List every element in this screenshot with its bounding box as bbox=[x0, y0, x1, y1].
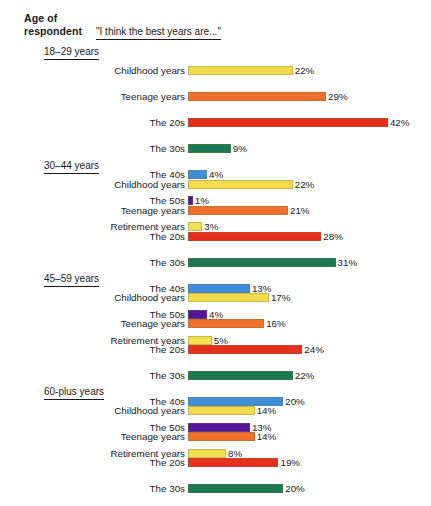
bar-row: The 30s31% bbox=[0, 256, 431, 269]
bar-category-label: The 30s bbox=[0, 256, 185, 269]
bar bbox=[188, 458, 278, 467]
bar-value-label: 9% bbox=[231, 142, 247, 155]
bar-row: Teenage years14% bbox=[0, 430, 431, 443]
bar-category-label: Teenage years bbox=[0, 430, 185, 443]
bar-category-label: Childhood years bbox=[0, 64, 185, 77]
bar-category-label: Childhood years bbox=[0, 178, 185, 191]
bar bbox=[188, 293, 269, 302]
bar-category-label: Teenage years bbox=[0, 90, 185, 103]
bar bbox=[188, 206, 288, 215]
bar-value-label: 22% bbox=[293, 178, 315, 191]
bar-category-label: The 30s bbox=[0, 369, 185, 382]
bar-value-label: 17% bbox=[269, 291, 291, 304]
chart-title: "I think the best years are..." bbox=[96, 26, 221, 40]
bar-value-label: 14% bbox=[255, 404, 277, 417]
bar-row: Teenage years16% bbox=[0, 317, 431, 330]
bar bbox=[188, 345, 302, 354]
bar-rows: Childhood years22%Teenage years29%The 20… bbox=[0, 64, 431, 155]
bar bbox=[188, 258, 336, 267]
bar-category-label: Teenage years bbox=[0, 317, 185, 330]
bar-category-label: Childhood years bbox=[0, 291, 185, 304]
bar-value-label: 22% bbox=[293, 369, 315, 382]
bar-category-label: Teenage years bbox=[0, 204, 185, 217]
age-group-label: 30–44 years bbox=[44, 160, 99, 174]
bar-row: The 20s19% bbox=[0, 456, 431, 469]
chart-container: Age of respondent "I think the best year… bbox=[0, 0, 431, 506]
bar-row: The 20s24% bbox=[0, 343, 431, 356]
bar-row: The 30s22% bbox=[0, 369, 431, 382]
bar-value-label: 19% bbox=[278, 456, 300, 469]
bar bbox=[188, 144, 231, 153]
bar-rows: Childhood years17%Teenage years16%The 20… bbox=[0, 291, 431, 382]
age-group-label: 60-plus years bbox=[44, 386, 104, 400]
bar bbox=[188, 484, 283, 493]
bar-rows: Childhood years22%Teenage years21%The 20… bbox=[0, 178, 431, 269]
bar-value-label: 21% bbox=[288, 204, 310, 217]
bar-value-label: 42% bbox=[388, 116, 410, 129]
bar-value-label: 16% bbox=[264, 317, 286, 330]
bar-row: Teenage years21% bbox=[0, 204, 431, 217]
bar-category-label: The 20s bbox=[0, 230, 185, 243]
bar-value-label: 24% bbox=[302, 343, 324, 356]
bar-value-label: 22% bbox=[293, 64, 315, 77]
bar bbox=[188, 432, 255, 441]
bar bbox=[188, 406, 255, 415]
bar bbox=[188, 92, 326, 101]
bar bbox=[188, 118, 388, 127]
bar-category-label: The 20s bbox=[0, 456, 185, 469]
bar-category-label: The 30s bbox=[0, 482, 185, 495]
bar-row: Teenage years29% bbox=[0, 90, 431, 103]
age-heading-line1: Age of bbox=[24, 12, 57, 24]
bar-row: The 20s28% bbox=[0, 230, 431, 243]
bar bbox=[188, 180, 293, 189]
bar-category-label: The 20s bbox=[0, 343, 185, 356]
bar-row: Childhood years22% bbox=[0, 178, 431, 191]
bar bbox=[188, 319, 264, 328]
bar-row: Childhood years14% bbox=[0, 404, 431, 417]
bar bbox=[188, 371, 293, 380]
bar-row: Childhood years22% bbox=[0, 64, 431, 77]
age-heading-line2: respondent bbox=[24, 25, 82, 37]
age-group-label: 45–59 years bbox=[44, 273, 99, 287]
bar-category-label: The 30s bbox=[0, 142, 185, 155]
bar-value-label: 28% bbox=[321, 230, 343, 243]
bar-rows: Childhood years14%Teenage years14%The 20… bbox=[0, 404, 431, 495]
bar bbox=[188, 66, 293, 75]
bar-row: The 20s42% bbox=[0, 116, 431, 129]
bar bbox=[188, 232, 321, 241]
bar-category-label: Childhood years bbox=[0, 404, 185, 417]
age-of-respondent-heading: Age of respondent bbox=[24, 12, 82, 37]
bar-value-label: 20% bbox=[283, 482, 305, 495]
age-group-label: 18–29 years bbox=[44, 46, 99, 60]
bar-value-label: 31% bbox=[336, 256, 358, 269]
bar-category-label: The 20s bbox=[0, 116, 185, 129]
bar-row: The 30s20% bbox=[0, 482, 431, 495]
bar-value-label: 14% bbox=[255, 430, 277, 443]
bar-row: Childhood years17% bbox=[0, 291, 431, 304]
bar-row: The 30s9% bbox=[0, 142, 431, 155]
bar-value-label: 29% bbox=[326, 90, 348, 103]
